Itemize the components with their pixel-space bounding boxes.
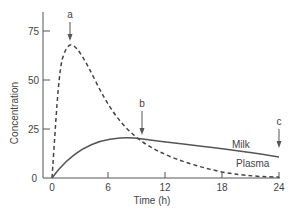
y-tick-label: 0	[31, 173, 37, 184]
annotation-c-label: c	[277, 116, 282, 127]
milk-label: Milk	[232, 139, 251, 150]
x-tick-label: 18	[216, 182, 228, 193]
annotation-c: c	[277, 116, 282, 148]
y-tick-labels: 0 25 50 75	[28, 26, 40, 184]
y-axis-label: Concentration	[9, 82, 20, 144]
arrow-down-icon	[140, 128, 145, 135]
annotation-b: b	[139, 98, 145, 135]
y-tick-label: 25	[28, 124, 40, 135]
arrow-down-icon	[68, 34, 73, 41]
x-tick-labels: 0 6 12 18 24	[49, 182, 285, 193]
annotation-a: a	[67, 9, 73, 41]
y-tick-label: 75	[28, 26, 40, 37]
annotation-b-label: b	[139, 98, 145, 109]
x-tick-label: 6	[105, 182, 111, 193]
arrow-down-icon	[277, 141, 282, 148]
y-tick-label: 50	[28, 75, 40, 86]
x-axis-label: Time (h)	[134, 195, 171, 206]
x-tick-label: 24	[273, 182, 285, 193]
annotation-a-label: a	[67, 9, 73, 20]
concentration-time-chart: 0 25 50 75 0 6 12 18 24 Time (h) Concent…	[0, 0, 292, 212]
x-tick-label: 12	[159, 182, 171, 193]
x-tick-label: 0	[49, 182, 55, 193]
plasma-label: Plasma	[236, 158, 270, 169]
